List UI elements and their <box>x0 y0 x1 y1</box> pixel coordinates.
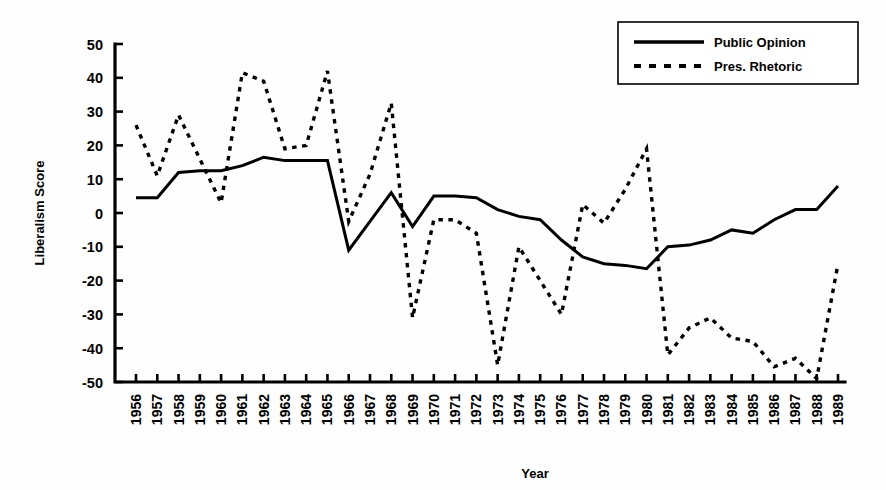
y-tick-label: 20 <box>87 138 103 154</box>
x-tick-label: 1972 <box>468 394 484 425</box>
x-tick-label: 1974 <box>511 394 527 425</box>
x-axis-title: Year <box>521 466 548 481</box>
x-tick-label: 1966 <box>341 394 357 425</box>
x-axis-tick-labels: 1956195719581959196019611962196319641965… <box>128 394 846 425</box>
x-tick-label: 1981 <box>660 394 676 425</box>
x-tick-label: 1971 <box>447 394 463 425</box>
x-tick-label: 1956 <box>128 394 144 425</box>
x-tick-label: 1975 <box>532 394 548 425</box>
x-tick-label: 1984 <box>724 394 740 425</box>
x-tick-label: 1962 <box>256 394 272 425</box>
x-tick-label: 1986 <box>766 394 782 425</box>
y-axis-tick-labels: 50403020100-10-20-30-40-50 <box>82 37 103 391</box>
data-series-group <box>136 71 838 379</box>
y-tick-label: 40 <box>87 70 103 86</box>
y-axis-title: Liberalism Score <box>32 161 47 266</box>
y-tick-label: -50 <box>82 375 103 391</box>
x-tick-label: 1963 <box>277 394 293 425</box>
x-tick-label: 1979 <box>617 394 633 425</box>
series-line-pres-rhetoric <box>136 71 838 379</box>
y-tick-label: 50 <box>87 37 103 53</box>
x-tick-label: 1976 <box>553 394 569 425</box>
y-tick-label: 30 <box>87 104 103 120</box>
line-chart-svg: 50403020100-10-20-30-40-50 1956195719581… <box>0 0 886 490</box>
x-tick-label: 1960 <box>213 394 229 425</box>
x-tick-label: 1973 <box>490 394 506 425</box>
x-tick-label: 1957 <box>149 394 165 425</box>
y-tick-label: 10 <box>87 172 103 188</box>
legend-label: Public Opinion <box>714 35 806 50</box>
y-tick-label: -10 <box>82 239 103 255</box>
x-tick-label: 1961 <box>234 394 250 425</box>
axis-spine <box>115 44 845 382</box>
legend-box <box>618 22 858 84</box>
x-tick-label: 1980 <box>639 394 655 425</box>
x-tick-label: 1967 <box>362 394 378 425</box>
x-tick-label: 1959 <box>192 394 208 425</box>
x-tick-label: 1989 <box>830 394 846 425</box>
x-tick-label: 1983 <box>702 394 718 425</box>
y-tick-label: -30 <box>82 307 103 323</box>
x-tick-label: 1977 <box>575 394 591 425</box>
y-tick-label: -40 <box>82 341 103 357</box>
x-tick-label: 1982 <box>681 394 697 425</box>
chart-figure: 50403020100-10-20-30-40-50 1956195719581… <box>0 0 886 490</box>
x-tick-label: 1968 <box>383 394 399 425</box>
axes-group <box>115 44 845 382</box>
x-tick-label: 1978 <box>596 394 612 425</box>
legend-label: Pres. Rhetoric <box>714 59 802 74</box>
x-tick-label: 1965 <box>319 394 335 425</box>
chart-canvas: 50403020100-10-20-30-40-50 1956195719581… <box>0 0 886 490</box>
y-tick-label: -20 <box>82 273 103 289</box>
x-tick-label: 1985 <box>745 394 761 425</box>
x-tick-label: 1958 <box>171 394 187 425</box>
chart-legend: Public OpinionPres. Rhetoric <box>618 22 858 84</box>
x-tick-label: 1970 <box>426 394 442 425</box>
series-line-public-opinion <box>136 157 838 269</box>
x-tick-label: 1969 <box>405 394 421 425</box>
x-tick-label: 1964 <box>298 394 314 425</box>
y-tick-label: 0 <box>95 206 103 222</box>
x-tick-label: 1987 <box>787 394 803 425</box>
x-tick-label: 1988 <box>809 394 825 425</box>
